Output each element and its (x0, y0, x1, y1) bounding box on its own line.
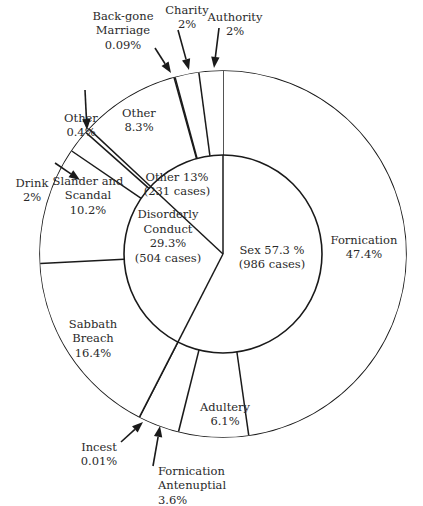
outer-label-line: Antenuptial (157, 478, 226, 492)
outer-label-line: 10.2% (70, 203, 107, 217)
outer-label-other-charity: Charity2% (165, 3, 209, 32)
arrow-head (154, 426, 162, 438)
inner-label-sex: Sex 57.3 %(986 cases) (239, 243, 305, 272)
outer-label-line: Authority (207, 10, 263, 24)
inner-label-line: Other 13% (146, 170, 209, 184)
outer-label-line: 3.6% (158, 493, 187, 506)
outer-label-sex-fornication-antenuptial: FornicationAntenuptial3.6% (157, 464, 226, 506)
callout-arrow-charity (178, 30, 190, 70)
callout-arrow-back-gone-marriage (155, 48, 171, 73)
outer-label-line: 2% (178, 17, 196, 31)
outer-label-line: Marriage (96, 23, 151, 37)
nested-pie-chart: Sex 57.3 %(986 cases)DisorderlyConduct29… (0, 0, 423, 506)
arrow-head (162, 61, 171, 73)
inner-label-line: 29.3% (150, 236, 187, 250)
outer-label-line: Slander and (53, 174, 124, 188)
outer-label-line: Breach (72, 331, 114, 345)
outer-label-other-authority: Authority2% (207, 10, 263, 39)
outer-label-line: 16.4% (75, 346, 112, 360)
callout-arrow-fornication-antenuptial (153, 426, 162, 466)
outer-label-line: 0.01% (81, 454, 118, 468)
inner-label-line: (504 cases) (135, 251, 201, 265)
outer-label-line: 47.4% (346, 247, 383, 261)
outer-label-line: Back-gone (93, 9, 154, 23)
arrow-shaft (121, 429, 135, 442)
outer-label-line: 2% (23, 190, 41, 204)
outer-label-line: 2% (226, 24, 244, 38)
inner-label-other: Other 13%(231 cases) (144, 170, 210, 199)
inner-label-line: Sex 57.3 % (239, 243, 304, 257)
inner-label-line: Conduct (144, 222, 193, 236)
outer-label-line: 6.1% (210, 414, 239, 428)
outer-label-line: Fornication (158, 464, 225, 478)
outer-label-disorderly-conduct-drink: Drink2% (16, 176, 50, 205)
outer-label-line: Scandal (65, 188, 112, 202)
outer-label-line: Other (64, 111, 98, 125)
outer-label-line: 0.09% (105, 38, 142, 52)
outer-label-line: Charity (165, 3, 209, 17)
outer-label-disorderly-conduct-other: Other0.4% (64, 111, 98, 140)
outer-label-line: 0.4% (66, 125, 95, 139)
inner-label-line: (986 cases) (239, 257, 305, 271)
outer-label-disorderly-conduct-sabbath-breach: SabbathBreach16.4% (69, 317, 118, 360)
inner-label-line: (231 cases) (144, 184, 210, 198)
arrow-shaft (155, 48, 165, 64)
callout-arrow-authority (211, 28, 219, 68)
outer-label-disorderly-conduct-incest: Incest0.01% (81, 440, 118, 469)
outer-label-line: Adultery (199, 400, 251, 414)
arrow-shaft (215, 28, 219, 57)
callout-arrow-incest (121, 422, 143, 442)
arrow-shaft (153, 437, 158, 466)
outer-label-other-other: Other8.3% (122, 106, 156, 135)
outer-label-line: Fornication (331, 233, 398, 247)
outer-label-other-back-gone-marriage: Back-goneMarriage0.09% (93, 9, 154, 52)
outer-label-line: Other (122, 106, 156, 120)
outer-label-line: Drink (16, 176, 50, 190)
outer-label-line: 8.3% (124, 120, 153, 134)
outer-label-line: Incest (81, 440, 117, 454)
arrow-head (211, 57, 219, 68)
inner-label-line: Disorderly (137, 207, 199, 221)
outer-label-line: Sabbath (69, 317, 118, 331)
arrow-head (182, 58, 190, 70)
arrow-shaft (178, 30, 186, 59)
